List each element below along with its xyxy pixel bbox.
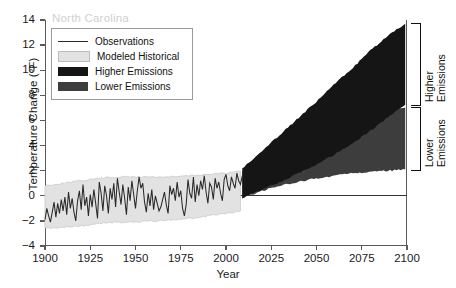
lower-emissions-label: Lower	[424, 139, 436, 168]
legend-label: Modeled Historical	[97, 51, 179, 62]
x-tick-label: 1900	[23, 252, 67, 264]
x-tick-label: 1950	[114, 252, 158, 264]
y-tick-label: −4	[1, 239, 35, 251]
legend-item-modeled-historical: Modeled Historical	[58, 49, 185, 64]
y-tick-label: 14	[1, 13, 35, 25]
higher-emissions-bracket	[411, 23, 421, 107]
higher-emissions-label: Emissions	[436, 54, 448, 102]
legend-color-swatch	[58, 67, 88, 76]
y-tick-label: 4	[1, 139, 35, 151]
legend-item-lower-emissions: Lower Emissions	[58, 79, 185, 94]
x-tick-label: 2025	[249, 252, 293, 264]
chart-legend: Observations Modeled Historical Higher E…	[51, 28, 193, 100]
x-tick-label: 1925	[68, 252, 112, 264]
legend-color-swatch	[58, 51, 90, 62]
x-axis-label: Year	[0, 268, 456, 280]
higher-emissions-label: Higher	[424, 71, 436, 102]
climate-projection-chart: Temperature Change (°F) Year North Carol…	[0, 0, 456, 288]
x-tick-label: 1975	[159, 252, 203, 264]
lower-emissions-label: Emissions	[436, 120, 448, 168]
lower-emissions-bracket	[411, 107, 421, 172]
legend-item-higher-emissions: Higher Emissions	[58, 64, 185, 79]
legend-label: Lower Emissions	[95, 81, 171, 92]
x-tick-label: 2000	[204, 252, 248, 264]
legend-line-swatch	[58, 41, 88, 42]
y-tick-label: −2	[1, 214, 35, 226]
x-tick-label: 2075	[340, 252, 384, 264]
series-band-modeled-historical	[45, 171, 240, 229]
y-tick-label: 8	[1, 88, 35, 100]
y-tick-label: 10	[1, 63, 35, 75]
y-tick-label: 0	[1, 189, 35, 201]
legend-label: Observations	[95, 36, 154, 47]
legend-item-observations: Observations	[58, 34, 185, 49]
x-tick-label: 2050	[295, 252, 339, 264]
y-tick-label: 2	[1, 164, 35, 176]
legend-label: Higher Emissions	[95, 66, 173, 77]
x-tick-label: 2100	[385, 252, 429, 264]
y-tick-label: 12	[1, 38, 35, 50]
legend-color-swatch	[58, 82, 88, 91]
y-tick-label: 6	[1, 113, 35, 125]
